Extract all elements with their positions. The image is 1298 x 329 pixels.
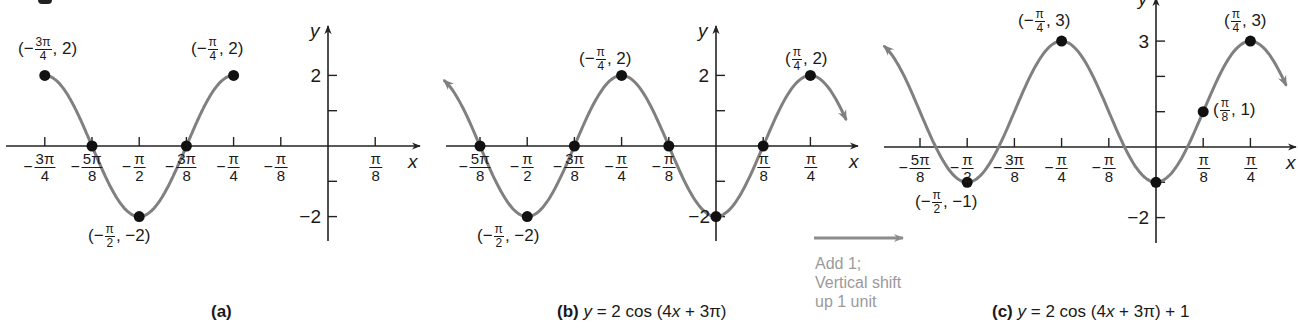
- data-point: [134, 211, 145, 222]
- x-tick-label: π8: [368, 151, 383, 184]
- data-point: [1056, 36, 1067, 47]
- data-point: [228, 70, 239, 81]
- ytick-label-b-2: 2: [698, 65, 709, 87]
- ytick-label-c-neg2: −2: [1127, 207, 1149, 229]
- point-label-c-1: (−π4, 3): [1018, 8, 1070, 34]
- point-label-a-1: (−3π4, 2): [18, 36, 77, 62]
- x-tick-label: −π2: [510, 151, 535, 184]
- x-axis-label-a: x: [408, 151, 418, 173]
- x-tick-label: −3π8: [993, 152, 1026, 185]
- point-label-b-3: (−π2, −2): [477, 223, 539, 249]
- data-point: [711, 211, 722, 222]
- note-line-1: Add 1;: [815, 254, 901, 273]
- x-tick-label: −π2: [950, 152, 975, 185]
- x-axis-label-c: x: [1286, 152, 1296, 174]
- x-tick-label: −3π4: [23, 151, 56, 184]
- x-axis-label-b: x: [849, 151, 859, 173]
- x-tick-label: −3π8: [165, 151, 198, 184]
- figure: (−3π4, 2) (−π4, 2) (−π2, −2) 2 −2 y x (a…: [0, 0, 1298, 329]
- note-line-3: up 1 unit: [815, 292, 901, 311]
- point-label-a-2: (−π4, 2): [191, 36, 243, 62]
- x-tick-label: −5π8: [70, 151, 103, 184]
- y-axis-label-a: y: [310, 20, 320, 42]
- x-tick-label: −5π8: [898, 152, 931, 185]
- note-line-2: Vertical shift: [815, 273, 901, 292]
- data-point: [1198, 106, 1209, 117]
- caption-a: (a): [211, 302, 232, 322]
- ytick-label-a-2: 2: [310, 65, 321, 87]
- data-point: [522, 211, 533, 222]
- y-axis-label-c: y: [1138, 0, 1148, 10]
- caption-c: (c) y = 2 cos (4x + 3π) + 1: [992, 302, 1189, 322]
- x-tick-label: −π8: [263, 151, 288, 184]
- data-point: [39, 70, 50, 81]
- x-tick-label: −3π8: [553, 151, 586, 184]
- ytick-label-b-neg2: −2: [688, 206, 710, 228]
- x-tick-label: −π4: [216, 151, 241, 184]
- x-tick-label: −π2: [122, 151, 147, 184]
- point-label-b-2: (π4, 2): [785, 46, 828, 72]
- x-tick-label: −π8: [1091, 152, 1116, 185]
- x-tick-label: −π4: [1044, 152, 1069, 185]
- point-label-a-3: (−π2, −2): [88, 223, 150, 249]
- data-point: [1151, 177, 1162, 188]
- point-label-b-1: (−π4, 2): [579, 46, 631, 72]
- x-tick-label: −π8: [651, 151, 676, 184]
- x-tick-label: π8: [756, 151, 771, 184]
- transform-note: Add 1; Vertical shift up 1 unit: [815, 254, 901, 311]
- x-tick-label: −5π8: [458, 151, 491, 184]
- point-label-c-2: (π4, 3): [1224, 8, 1267, 34]
- caption-b: (b) y = 2 cos (4x + 3π): [557, 302, 727, 322]
- x-tick-label: π8: [1196, 152, 1211, 185]
- y-axis-label-b: y: [698, 20, 708, 42]
- ytick-label-c-3: 3: [1138, 31, 1149, 53]
- x-tick-label: π4: [1243, 152, 1258, 185]
- data-point: [1245, 36, 1256, 47]
- point-label-c-3: (π8, 1): [1213, 97, 1256, 123]
- point-label-c-4: (−π2, −1): [915, 189, 977, 215]
- x-tick-label: −π4: [604, 151, 629, 184]
- ytick-label-a-neg2: −2: [299, 206, 321, 228]
- x-tick-label: π4: [803, 151, 818, 184]
